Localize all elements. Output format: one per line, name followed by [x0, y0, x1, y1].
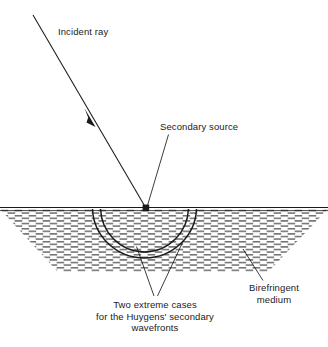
incident-ray-line: [33, 15, 145, 207]
label-two-extreme-cases-line2: for the Huygens' secondary: [96, 311, 214, 323]
label-two-extreme-cases: Two extreme cases for the Huygens' secon…: [96, 299, 214, 334]
birefringent-medium-region: [0, 209, 328, 272]
medium-hatch-fill-b: [0, 209, 328, 272]
leader-line-secondary-source: [148, 135, 169, 206]
incident-ray-arrowhead: [85, 108, 96, 127]
label-two-extreme-cases-line3: wavefronts: [96, 322, 214, 334]
label-birefringent-medium-line2: medium: [249, 294, 299, 306]
incident-ray: [33, 15, 145, 207]
label-birefringent-medium-line1: Birefringent: [249, 282, 299, 294]
label-two-extreme-cases-line1: Two extreme cases: [96, 299, 214, 311]
secondary-source-point: [143, 205, 150, 212]
optics-diagram-figure: Incident ray Secondary source Two extrem…: [0, 0, 328, 347]
label-birefringent-medium: Birefringent medium: [249, 282, 299, 305]
label-incident-ray: Incident ray: [58, 26, 108, 38]
label-secondary-source: Secondary source: [160, 121, 238, 133]
